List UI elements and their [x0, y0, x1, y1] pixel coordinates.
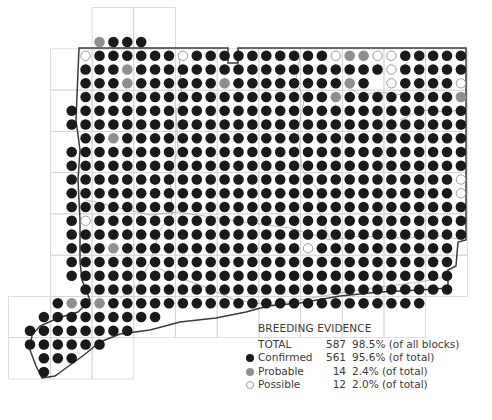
confirmed-dot: [317, 64, 328, 75]
confirmed-dot: [428, 92, 439, 103]
confirmed-dot: [94, 257, 105, 268]
confirmed-dot: [219, 257, 230, 268]
confirmed-dot: [386, 174, 397, 185]
confirmed-dot: [136, 119, 147, 130]
confirmed-dot: [219, 271, 230, 282]
confirmed-dot: [275, 229, 286, 240]
confirmed-dot: [122, 133, 133, 144]
confirmed-dot: [372, 92, 383, 103]
confirmed-dot: [233, 51, 244, 62]
confirmed-dot: [150, 51, 161, 62]
confirmed-dot: [122, 92, 133, 103]
confirmed-dot: [303, 133, 314, 144]
confirmed-dot: [80, 78, 91, 89]
confirmed-dot: [178, 161, 189, 172]
confirmed-dot: [289, 257, 300, 268]
confirmed-dot: [178, 119, 189, 130]
possible-dot: [81, 51, 90, 60]
confirmed-dot: [400, 271, 411, 282]
confirmed-dot: [386, 216, 397, 227]
confirmed-dot: [219, 64, 230, 75]
confirmed-dot: [219, 174, 230, 185]
confirmed-dot: [94, 326, 105, 337]
confirmed-dot: [136, 271, 147, 282]
confirmed-dot: [372, 174, 383, 185]
confirmed-dot: [150, 78, 161, 89]
confirmed-dot: [317, 78, 328, 89]
confirmed-dot: [303, 92, 314, 103]
confirmed-dot: [358, 106, 369, 117]
confirmed-dot: [442, 119, 453, 130]
confirmed-dot: [331, 133, 342, 144]
confirmed-dot: [192, 298, 203, 309]
confirmed-dot: [261, 78, 272, 89]
confirmed-dot: [233, 257, 244, 268]
confirmed-dot: [136, 229, 147, 240]
confirmed-dot: [372, 229, 383, 240]
confirmed-dot: [372, 298, 383, 309]
confirmed-dot: [192, 92, 203, 103]
confirmed-dot: [372, 243, 383, 254]
confirmed-dot: [275, 216, 286, 227]
confirmed-dot: [136, 147, 147, 158]
confirmed-dot: [122, 257, 133, 268]
confirmed-dot: [233, 174, 244, 185]
confirmed-dot: [247, 284, 258, 295]
confirmed-dot: [247, 188, 258, 199]
confirmed-dot: [178, 243, 189, 254]
confirmed-dot: [386, 243, 397, 254]
confirmed-dot: [303, 257, 314, 268]
confirmed-dot: [205, 106, 216, 117]
confirmed-dot: [414, 51, 425, 62]
confirmed-dot: [178, 216, 189, 227]
confirmed-dot: [331, 202, 342, 213]
confirmed-dot: [275, 243, 286, 254]
confirmed-dot: [178, 202, 189, 213]
confirmed-dot: [344, 106, 355, 117]
confirmed-dot: [164, 284, 175, 295]
confirmed-dot: [456, 147, 467, 158]
confirmed-dot: [275, 106, 286, 117]
confirmed-dot: [317, 92, 328, 103]
confirmed-dot: [400, 133, 411, 144]
confirmed-dot: [358, 78, 369, 89]
confirmed-dot: [289, 161, 300, 172]
confirmed-dot: [150, 298, 161, 309]
possible-dot: [387, 51, 396, 60]
confirmed-dot: [344, 243, 355, 254]
confirmed-dot: [414, 298, 425, 309]
legend-count: 561: [314, 351, 346, 365]
confirmed-dot: [317, 106, 328, 117]
probable-dot: [344, 78, 355, 89]
confirmed-dot: [219, 119, 230, 130]
confirmed-dot: [122, 243, 133, 254]
confirmed-dot: [108, 326, 119, 337]
confirmed-dot: [414, 229, 425, 240]
confirmed-dot: [442, 216, 453, 227]
confirmed-dot: [442, 243, 453, 254]
confirmed-dot: [247, 257, 258, 268]
confirmed-dot: [289, 78, 300, 89]
confirmed-dot: [331, 284, 342, 295]
confirmed-dot: [192, 51, 203, 62]
confirmed-dot: [303, 188, 314, 199]
confirmed-dot: [136, 298, 147, 309]
possible-dot: [456, 175, 465, 184]
confirmed-dot: [275, 298, 286, 309]
confirmed-dot: [192, 257, 203, 268]
confirmed-dot: [400, 298, 411, 309]
confirmed-dot: [122, 312, 133, 323]
block-dots: [25, 37, 467, 378]
confirmed-dot: [428, 106, 439, 117]
confirmed-dot: [80, 161, 91, 172]
confirmed-dot: [205, 243, 216, 254]
confirmed-dot: [247, 133, 258, 144]
confirmed-dot: [442, 51, 453, 62]
confirmed-dot: [39, 326, 50, 337]
confirmed-dot: [261, 284, 272, 295]
confirmed-dot: [94, 339, 105, 350]
confirmed-dot: [122, 284, 133, 295]
confirmed-dot: [192, 188, 203, 199]
confirmed-dot: [261, 147, 272, 158]
confirmed-dot: [428, 51, 439, 62]
